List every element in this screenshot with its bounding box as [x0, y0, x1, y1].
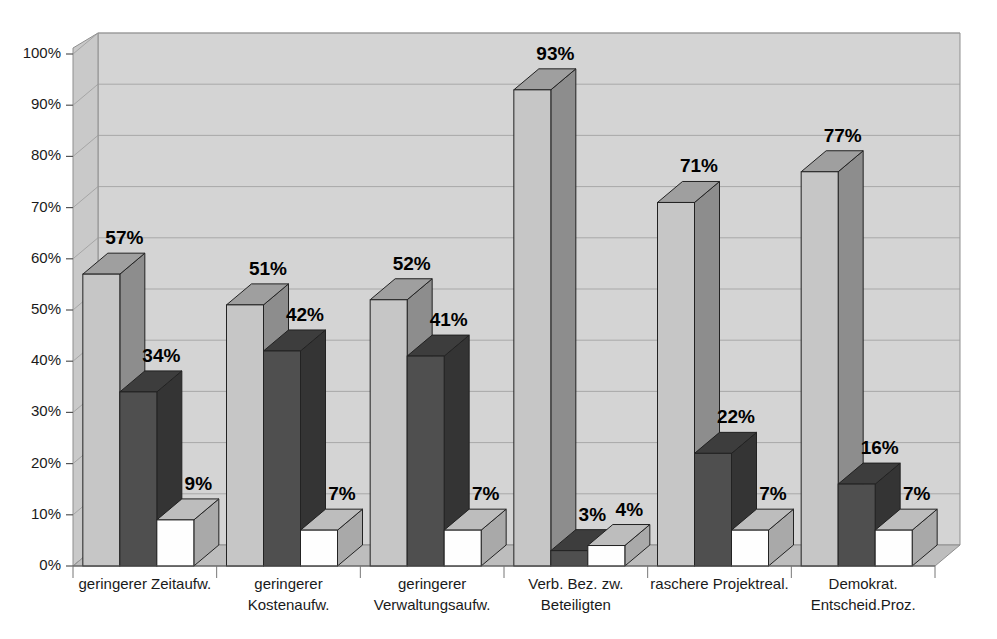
bar-value-label: 9%	[185, 473, 213, 494]
y-axis-tick-label: 20%	[31, 454, 61, 471]
bar-front-face	[875, 530, 912, 566]
bar-series-1-cat-3	[514, 69, 576, 566]
y-axis-tick-label: 80%	[31, 146, 61, 163]
category-label-line: geringerer Zeitaufw.	[79, 575, 212, 592]
bar-front-face	[514, 90, 551, 566]
bar-value-label: 51%	[249, 258, 287, 279]
bar-front-face	[695, 453, 732, 566]
category-label-line: raschere Projektreal.	[650, 575, 788, 592]
bar-value-label: 52%	[393, 253, 431, 274]
y-axis-tick-label: 100%	[23, 44, 61, 61]
category-label-line: Beteiligten	[541, 596, 611, 613]
bar-value-label: 7%	[328, 483, 356, 504]
bar-chart-3d: 0%10%20%30%40%50%60%70%80%90%100% 57%34%…	[0, 0, 997, 639]
bar-value-label: 34%	[142, 345, 180, 366]
y-axis-tick-label: 10%	[31, 505, 61, 522]
bar-front-face	[658, 202, 695, 566]
y-axis-tick-label: 70%	[31, 198, 61, 215]
bar-value-label: 16%	[861, 437, 899, 458]
bar-value-label: 57%	[105, 227, 143, 248]
bar-value-label: 93%	[536, 43, 574, 64]
bar-value-label: 77%	[824, 125, 862, 146]
bar-front-face	[732, 530, 769, 566]
y-axis-tick-label: 30%	[31, 402, 61, 419]
category-label-line: geringerer	[398, 575, 466, 592]
category-label-line: geringerer	[254, 575, 322, 592]
y-axis-tick-label: 40%	[31, 351, 61, 368]
bar-front-face	[551, 551, 588, 566]
bar-front-face	[801, 172, 838, 566]
bar-value-label: 22%	[717, 406, 755, 427]
bar-front-face	[588, 546, 625, 566]
bar-value-label: 7%	[759, 483, 787, 504]
bar-value-label: 71%	[680, 155, 718, 176]
y-axis-tick-label: 90%	[31, 95, 61, 112]
bar-value-label: 4%	[616, 499, 644, 520]
bar-front-face	[120, 392, 157, 566]
bar-side-face	[551, 69, 576, 566]
bar-value-label: 7%	[472, 483, 500, 504]
category-label-line: Demokrat.	[829, 575, 898, 592]
bar-value-label: 3%	[579, 504, 607, 525]
bar-front-face	[227, 305, 264, 566]
y-axis-tick-label: 60%	[31, 249, 61, 266]
y-axis-tick-label: 50%	[31, 300, 61, 317]
bar-front-face	[370, 300, 407, 566]
bar-front-face	[444, 530, 481, 566]
category-label-line: Verwaltungsaufw.	[374, 596, 491, 613]
bar-value-label: 7%	[903, 483, 931, 504]
bar-front-face	[838, 484, 875, 566]
y-axis-tick-label: 0%	[39, 556, 61, 573]
bar-value-label: 42%	[286, 304, 324, 325]
bar-front-face	[301, 530, 338, 566]
bar-front-face	[83, 274, 120, 566]
category-label-line: Kostenaufw.	[248, 596, 330, 613]
category-label-line: Verb. Bez. zw.	[528, 575, 623, 592]
chart-container: 0%10%20%30%40%50%60%70%80%90%100% 57%34%…	[0, 0, 997, 639]
bar-front-face	[264, 351, 301, 566]
bar-front-face	[407, 356, 444, 566]
bar-front-face	[157, 520, 194, 566]
category-label-line: Entscheid.Proz.	[811, 596, 916, 613]
bar-value-label: 41%	[430, 309, 468, 330]
